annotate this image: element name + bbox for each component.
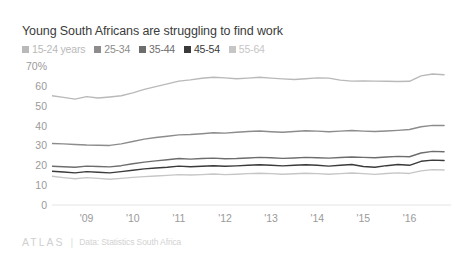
y-axis-tick-label: 0 [41,199,47,211]
y-axis-tick-label: 10 [35,179,47,191]
line-chart-svg [52,60,451,212]
legend-swatch-icon [229,46,236,53]
chart-title: Young South Africans are struggling to f… [22,24,283,38]
legend-label: 15-24 years [32,43,85,55]
legend-item-15-24-years[interactable]: 15-24 years [22,43,85,55]
y-axis-tick-label: 30 [35,139,47,151]
legend-item-25-34[interactable]: 25-34 [94,43,130,55]
y-axis-tick-label: 50 [35,100,47,112]
x-axis-tick-label: '14 [310,212,324,224]
y-axis: 70%6050403020100 [8,60,52,212]
plot-lines [52,60,451,212]
plot-area: 70%6050403020100 [8,60,451,212]
series-line-15-24-years [52,74,444,99]
y-axis-tick-label: 60 [35,80,47,92]
series-line-55-64 [52,170,444,180]
legend-label: 55-64 [239,43,265,55]
x-axis-tick-label: '12 [218,212,232,224]
legend-label: 35-44 [149,43,175,55]
x-axis-tick-label: '13 [264,212,278,224]
x-axis-tick-label: '16 [403,212,417,224]
legend-item-45-54[interactable]: 45-54 [184,43,220,55]
x-axis: '09'10'11'12'13'14'15'16 [52,212,451,228]
legend-label: 25-34 [104,43,130,55]
atlas-logo: ATLAS [22,236,64,248]
legend-swatch-icon [22,46,29,53]
legend-swatch-icon [184,46,191,53]
x-axis-tick-label: '09 [80,212,94,224]
y-axis-tick-label: 40 [35,120,47,132]
legend-label: 45-54 [194,43,220,55]
legend-item-55-64[interactable]: 55-64 [229,43,265,55]
chart-footer: ATLAS | Data: Statistics South Africa [22,236,181,248]
series-line-25-34 [52,125,444,145]
chart-legend: 15-24 years25-3435-4445-5455-64 [22,43,265,55]
y-axis-tick-label: 20 [35,159,47,171]
chart-card: Young South Africans are struggling to f… [8,8,451,256]
x-axis-tick-label: '11 [172,212,185,224]
footer-divider: | [70,236,73,248]
chart-screenshot: Young South Africans are struggling to f… [0,0,459,264]
x-axis-tick-label: '10 [126,212,140,224]
legend-swatch-icon [139,46,146,53]
legend-swatch-icon [94,46,101,53]
source-attribution: Data: Statistics South Africa [79,237,181,247]
x-axis-tick-label: '15 [357,212,371,224]
legend-item-35-44[interactable]: 35-44 [139,43,175,55]
y-axis-tick-label: 70% [26,60,47,72]
